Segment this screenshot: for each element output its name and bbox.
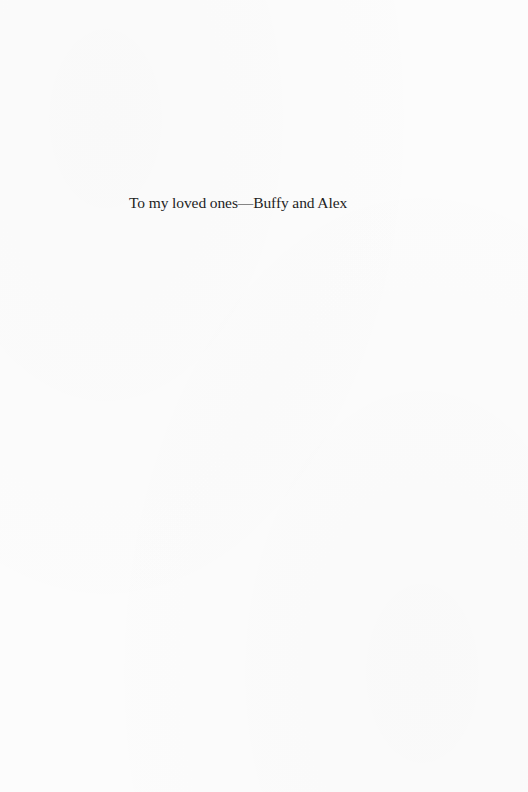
book-page: To my loved ones—Buffy and Alex xyxy=(0,0,528,792)
dedication-text: To my loved ones—Buffy and Alex xyxy=(129,193,347,213)
